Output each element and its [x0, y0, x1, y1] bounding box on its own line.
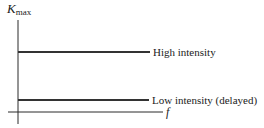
chart: Kmax f High intensity Low intensity (del…	[0, 0, 264, 128]
plot-area	[0, 0, 264, 128]
y-axis-label: Kmax	[7, 3, 31, 18]
series-label-low-intensity: Low intensity (delayed)	[152, 94, 257, 106]
x-axis-label: f	[166, 106, 169, 118]
series-label-high-intensity: High intensity	[153, 46, 216, 58]
